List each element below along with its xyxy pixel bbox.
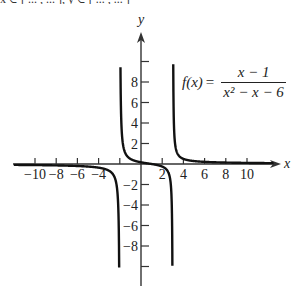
equals-sign: =	[206, 74, 214, 91]
axes: xy	[13, 12, 291, 286]
y-tick-label: −6	[123, 219, 138, 234]
x-tick-label: −6	[70, 167, 85, 182]
x-axis-label: x	[283, 156, 291, 171]
denominator: x² − x − 6	[221, 82, 286, 101]
y-tick-label: −2	[123, 178, 138, 193]
x-tick-label: −8	[49, 167, 64, 182]
fraction: x − 1 x² − x − 6	[221, 64, 286, 101]
function-formula-label: f(x) = x − 1 x² − x − 6	[182, 64, 286, 101]
y-tick-label: 2	[131, 137, 138, 152]
y-tick-label: 8	[131, 75, 138, 90]
x-tick-label: 10	[240, 167, 254, 182]
function-name: f(x)	[182, 74, 203, 91]
numerator: x − 1	[236, 64, 272, 82]
x-tick-label: 4	[180, 167, 187, 182]
y-tick-label: −4	[123, 198, 138, 213]
x-tick-label: 8	[222, 167, 229, 182]
y-tick-label: 6	[131, 96, 138, 111]
y-tick-label: 4	[131, 116, 138, 131]
function-graph: xy −10−8−6−42468108642−2−4−6−8	[0, 0, 297, 294]
x-tick-label: −10	[24, 167, 46, 182]
curve-branch-2	[120, 67, 172, 266]
x-tick-label: 6	[201, 167, 208, 182]
y-axis-label: y	[136, 12, 145, 27]
y-tick-label: −8	[123, 239, 138, 254]
